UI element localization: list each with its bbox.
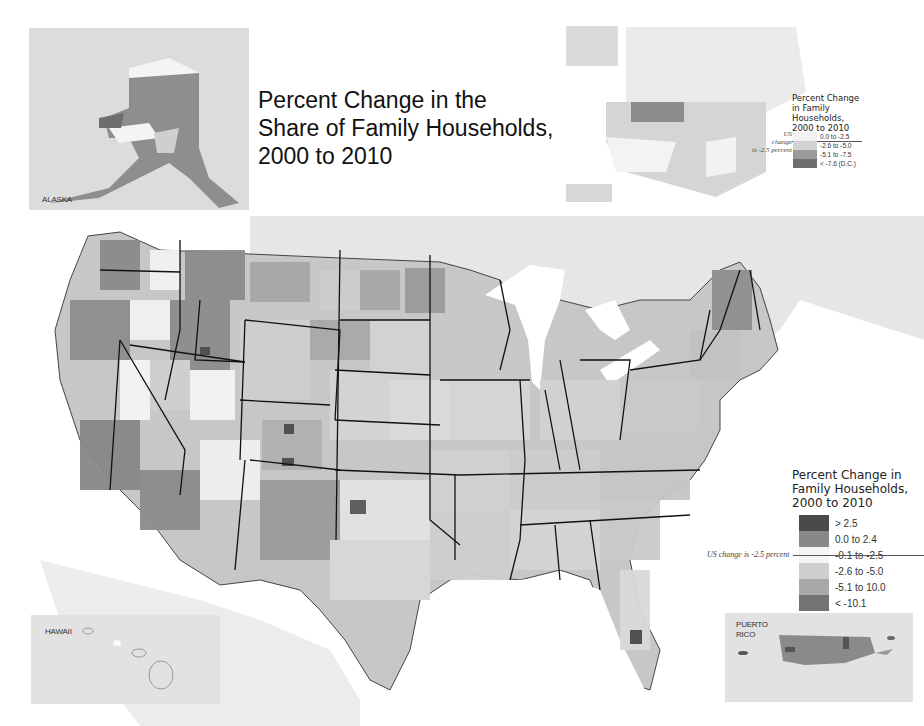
state-legend-swatch <box>793 150 817 159</box>
main-legend-label: > 2.5 <box>835 518 858 529</box>
alaska-inset: ALASKA <box>29 28 249 210</box>
alaska-shape <box>29 28 249 210</box>
state-legend-label: 0.0 to -2.5 <box>820 133 849 140</box>
main-legend-swatch <box>799 531 829 547</box>
state-legend-swatch <box>793 159 817 168</box>
title-line-2: Share of Family Households, <box>258 114 553 142</box>
state-legend-item: < -7.6 (D.C.) <box>793 159 856 168</box>
page-title: Percent Change in the Share of Family Ho… <box>258 86 553 170</box>
main-legend-label: -2.6 to -5.0 <box>835 566 883 577</box>
main-legend-item: 0.0 to 2.4 <box>799 531 877 547</box>
state-legend-title-line: Households, <box>792 113 859 123</box>
main-legend-label: 0.0 to 2.4 <box>835 534 877 545</box>
main-legend-title: Percent Change in Family Households, 200… <box>792 468 908 510</box>
main-legend-title-line: Percent Change in <box>792 468 908 482</box>
state-legend-label: < -7.6 (D.C.) <box>820 160 856 167</box>
main-legend-us-rule <box>793 555 924 556</box>
state-legend-item: 0.0 to -2.5 <box>793 132 849 141</box>
main-legend-item: -5.1 to 10.0 <box>799 579 886 595</box>
main-legend-swatch <box>799 515 829 531</box>
puerto-rico-inset: PUERTO RICO <box>725 613 913 702</box>
main-legend-swatch <box>799 595 829 611</box>
main-legend-title-line: Family Households, <box>792 482 908 496</box>
alaska-label: ALASKA <box>42 195 72 205</box>
us-note-line: is -2.5 percent <box>740 146 792 154</box>
state-legend-item: -5.1 to -7.5 <box>793 150 851 159</box>
hawaii-inset: HAWAII <box>31 615 220 704</box>
main-legend-label: -5.1 to 10.0 <box>835 582 886 593</box>
state-legend-us-note: US change is -2.5 percent <box>740 130 792 154</box>
state-legend-swatch <box>793 132 817 141</box>
main-legend-us-note: US change is -2.5 percent <box>707 550 790 559</box>
state-legend-title: Percent Change in Family Households, 200… <box>792 93 859 133</box>
main-legend-title-line: 2000 to 2010 <box>792 496 908 510</box>
main-legend-item: < -10.1 <box>799 595 866 611</box>
puerto-rico-label-line: RICO <box>736 630 768 640</box>
main-legend-item: -2.6 to -5.0 <box>799 563 883 579</box>
state-legend-swatch <box>793 141 817 150</box>
title-line-1: Percent Change in the <box>258 86 553 114</box>
main-legend-item: > 2.5 <box>799 515 858 531</box>
state-legend-title-line: in Family <box>792 103 859 113</box>
state-legend-item: -2.6 to -5.0 <box>793 141 851 150</box>
state-legend-label: -2.6 to -5.0 <box>820 142 851 149</box>
main-legend-swatch <box>799 563 829 579</box>
main-legend-swatch <box>799 579 829 595</box>
montana-north-dakota <box>631 102 684 122</box>
puerto-rico-label: PUERTO RICO <box>736 620 768 640</box>
us-note-line: US <box>740 130 792 138</box>
state-level-map <box>566 22 816 202</box>
us-note-line: change <box>740 138 792 146</box>
state-legend-label: -5.1 to -7.5 <box>820 151 851 158</box>
hawaii-label: HAWAII <box>45 627 72 637</box>
title-line-3: 2000 to 2010 <box>258 142 553 170</box>
puerto-rico-label-line: PUERTO <box>736 620 768 630</box>
state-legend-title-line: Percent Change <box>792 93 859 103</box>
main-legend-label: < -10.1 <box>835 598 866 609</box>
